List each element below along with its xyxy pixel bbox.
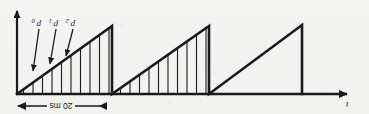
leader-line-p2 — [66, 29, 73, 56]
annotation-label-p1: p 1 — [49, 18, 59, 30]
leader-line-p0 — [33, 29, 39, 71]
sawtooth-trace — [17, 25, 302, 94]
annotation-label-p0: p 0 — [31, 18, 42, 30]
waveform-plot: t 20 ms p 2 p 1 p 0 — [0, 0, 369, 114]
annotation-label-p0-base: p — [36, 20, 42, 30]
period-label: 20 ms — [49, 101, 72, 111]
annotation-label-p2-base: p — [70, 20, 76, 30]
annotation-label-p1-base: p — [53, 20, 59, 30]
sawtooth-path — [17, 25, 302, 94]
sawtooth-waveform-figure: t 20 ms p 2 p 1 p 0 — [0, 0, 369, 114]
annotation-label-p2-subscript: 2 — [65, 18, 69, 25]
rotated-scan-container: t 20 ms p 2 p 1 p 0 — [0, 0, 369, 114]
time-axis-label: t — [345, 100, 348, 110]
annotation-label-p2: p 2 — [65, 18, 76, 30]
annotation-label-p1-subscript: 1 — [49, 18, 52, 25]
annotation-label-p0-subscript: 0 — [31, 18, 35, 25]
annotation-leaders — [33, 29, 73, 71]
leader-line-p1 — [50, 29, 56, 64]
